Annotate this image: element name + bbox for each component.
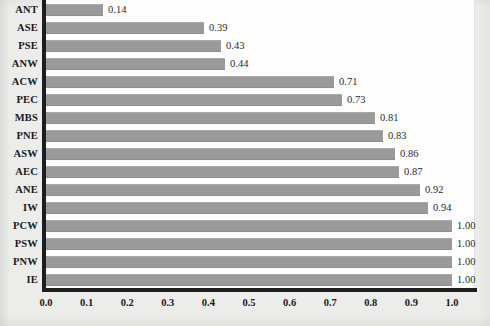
bar-value-label: 0.44 — [230, 55, 248, 73]
bar-value-label: 0.73 — [347, 91, 365, 109]
bar-row: ASE0.39 — [0, 19, 490, 37]
bar-value-label: 0.94 — [433, 199, 451, 217]
bar-value-label: 0.14 — [108, 1, 126, 19]
bar-pcw — [46, 220, 452, 232]
category-label-ie: IE — [0, 271, 38, 289]
category-label-psw: PSW — [0, 235, 38, 253]
bar-ie — [46, 274, 452, 286]
category-label-ase: ASE — [0, 19, 38, 37]
x-tick-label: 0.3 — [148, 296, 188, 310]
bar-row: IW0.94 — [0, 199, 490, 217]
bar-group: 0.94 — [46, 199, 451, 217]
bar-group: 0.71 — [46, 73, 357, 91]
x-axis-tick-labels: 0.00.10.20.30.40.50.60.70.80.91.0 — [0, 296, 490, 312]
bar-value-label: 1.00 — [457, 217, 475, 235]
bar-row: ANW0.44 — [0, 55, 490, 73]
bar-row: ASW0.86 — [0, 145, 490, 163]
bar-value-label: 0.81 — [380, 109, 398, 127]
bar-value-label: 0.83 — [388, 127, 406, 145]
x-tick-label: 0.2 — [107, 296, 147, 310]
bar-group: 0.43 — [46, 37, 244, 55]
x-tick-label: 0.6 — [270, 296, 310, 310]
x-tick-label: 0.4 — [188, 296, 228, 310]
category-label-pnw: PNW — [0, 253, 38, 271]
category-label-ant: ANT — [0, 1, 38, 19]
category-label-asw: ASW — [0, 145, 38, 163]
bar-group: 0.83 — [46, 127, 406, 145]
bar-row: PCW1.00 — [0, 217, 490, 235]
category-label-pcw: PCW — [0, 217, 38, 235]
bar-row: ANE0.92 — [0, 181, 490, 199]
bar-anw — [46, 58, 225, 70]
chart-figure: ANT0.14ASE0.39PSE0.43ANW0.44ACW0.71PEC0.… — [0, 0, 490, 326]
category-label-aec: AEC — [0, 163, 38, 181]
bar-iw — [46, 202, 428, 214]
bar-row: MBS0.81 — [0, 109, 490, 127]
category-label-pne: PNE — [0, 127, 38, 145]
x-tick-label: 0.0 — [26, 296, 66, 310]
category-label-acw: ACW — [0, 73, 38, 91]
bar-psw — [46, 238, 452, 250]
bar-row: PNW1.00 — [0, 253, 490, 271]
bar-value-label: 0.71 — [339, 73, 357, 91]
bar-group: 0.81 — [46, 109, 398, 127]
bar-row: PEC0.73 — [0, 91, 490, 109]
x-tick-label: 1.0 — [432, 296, 472, 310]
bar-row: ACW0.71 — [0, 73, 490, 91]
bar-pne — [46, 130, 383, 142]
bar-pec — [46, 94, 342, 106]
bar-group: 0.92 — [46, 181, 443, 199]
bar-row: ANT0.14 — [0, 1, 490, 19]
bar-pse — [46, 40, 221, 52]
bar-ane — [46, 184, 420, 196]
bar-value-label: 1.00 — [457, 271, 475, 289]
bar-group: 1.00 — [46, 235, 475, 253]
bar-group: 0.73 — [46, 91, 365, 109]
category-label-mbs: MBS — [0, 109, 38, 127]
bar-value-label: 0.87 — [404, 163, 422, 181]
x-tick-label: 0.5 — [229, 296, 269, 310]
bar-mbs — [46, 112, 375, 124]
bar-row: IE1.00 — [0, 271, 490, 289]
bar-group: 0.86 — [46, 145, 418, 163]
bar-group: 0.44 — [46, 55, 248, 73]
bar-row: PSW1.00 — [0, 235, 490, 253]
bar-group: 0.14 — [46, 1, 126, 19]
bar-asw — [46, 148, 395, 160]
bar-value-label: 1.00 — [457, 253, 475, 271]
bar-value-label: 1.00 — [457, 235, 475, 253]
bar-row: AEC0.87 — [0, 163, 490, 181]
bar-rows: ANT0.14ASE0.39PSE0.43ANW0.44ACW0.71PEC0.… — [0, 0, 490, 289]
bar-value-label: 0.86 — [400, 145, 418, 163]
bar-value-label: 0.39 — [209, 19, 227, 37]
bar-aec — [46, 166, 399, 178]
category-label-iw: IW — [0, 199, 38, 217]
category-label-pse: PSE — [0, 37, 38, 55]
x-tick-label: 0.8 — [351, 296, 391, 310]
bar-group: 0.39 — [46, 19, 227, 37]
x-tick-label: 0.1 — [67, 296, 107, 310]
bar-pnw — [46, 256, 452, 268]
bar-acw — [46, 76, 334, 88]
x-tick-label: 0.9 — [391, 296, 431, 310]
bar-ase — [46, 22, 204, 34]
bar-value-label: 0.92 — [425, 181, 443, 199]
category-label-pec: PEC — [0, 91, 38, 109]
bar-row: PNE0.83 — [0, 127, 490, 145]
bar-row: PSE0.43 — [0, 37, 490, 55]
x-tick-label: 0.7 — [310, 296, 350, 310]
category-label-ane: ANE — [0, 181, 38, 199]
bar-group: 1.00 — [46, 253, 475, 271]
bar-group: 1.00 — [46, 217, 475, 235]
bar-group: 1.00 — [46, 271, 475, 289]
bar-value-label: 0.43 — [226, 37, 244, 55]
bar-group: 0.87 — [46, 163, 422, 181]
bar-ant — [46, 4, 103, 16]
category-label-anw: ANW — [0, 55, 38, 73]
